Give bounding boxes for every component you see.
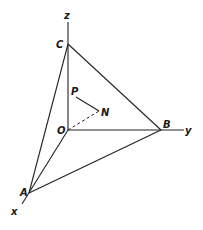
point-n-label: N <box>101 107 110 118</box>
x-axis-label: x <box>10 206 18 217</box>
segment-pn <box>76 97 99 111</box>
edge-ca <box>29 44 68 193</box>
point-p-label: P <box>71 86 79 97</box>
y-axis-label: y <box>185 125 192 136</box>
point-b-label: B <box>163 119 171 130</box>
edge-bc <box>68 44 161 130</box>
point-o-label: O <box>57 125 66 136</box>
point-a-label: A <box>19 187 28 198</box>
point-c-label: C <box>56 39 64 50</box>
segment-on-dashed <box>68 111 99 130</box>
z-axis-label: z <box>63 10 70 21</box>
tetrahedron-diagram: z y x C P N O B A <box>0 0 203 230</box>
